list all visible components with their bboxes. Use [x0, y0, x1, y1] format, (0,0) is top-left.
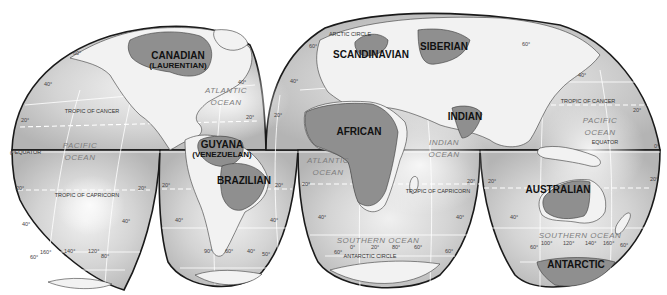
lon-40-sa: 40°	[247, 248, 255, 254]
deg-20-na: 20°	[21, 117, 29, 123]
deg-60-eu: 60°	[309, 43, 317, 49]
label-atlantic-south: ATLANTIC	[306, 156, 349, 165]
label-pacific-west-2: OCEAN	[65, 153, 96, 162]
deg-20-as: 20°	[633, 107, 641, 113]
deg-20-atl: 20°	[246, 114, 254, 120]
label-canadian-sub: (LAURENTIAN)	[149, 61, 207, 70]
deg-40-pac-e: 40°	[122, 218, 130, 224]
label-canadian: CANADIAN	[151, 50, 204, 61]
label-tropic-capricorn-africa: TROPIC OF CAPRICORN	[406, 188, 471, 194]
label-tropic-cancer-west: TROPIC OF CANCER	[65, 108, 120, 114]
deg-40-sa-e: 40°	[270, 217, 278, 223]
deg-20-sa-w: 20°	[162, 182, 170, 188]
deg-60-as: 60°	[522, 41, 530, 47]
deg-40-atl: 40°	[238, 79, 246, 85]
deg-0-west: 0°	[10, 150, 15, 156]
lon-80-af: 80°	[392, 244, 400, 250]
deg-40-sa-w: 40°	[175, 217, 183, 223]
lon-160-w: 160°	[40, 249, 51, 255]
label-equator-west: EQUATOR	[15, 149, 42, 155]
deg-40-au: 40°	[510, 214, 518, 220]
lon-60-sa: 60°	[225, 248, 233, 254]
label-equator-east: EQUATOR	[592, 139, 619, 145]
deg-40-eu: 40°	[290, 78, 298, 84]
lon-0-af: 0°	[350, 244, 355, 250]
label-atlantic-north-2: OCEAN	[211, 98, 242, 107]
label-antarctic: ANTARCTIC	[547, 259, 605, 270]
label-arctic-circle: ARCTIC CIRCLE	[329, 31, 372, 37]
lon-50-sa: 50°	[262, 251, 270, 257]
deg-20-pac-e: 20°	[138, 185, 146, 191]
label-pacific-east: PACIFIC	[583, 116, 617, 125]
lon-140-au: 140°	[585, 240, 596, 246]
deg-40-af-w: 40°	[318, 214, 326, 220]
lon-140-w: 140°	[64, 248, 75, 254]
label-tropic-cancer-east: TROPIC OF CANCER	[561, 98, 616, 104]
label-atlantic-north: ATLANTIC	[204, 86, 247, 95]
deg-60-au-w: 60°	[530, 244, 538, 250]
lon-80-w: 80°	[101, 253, 109, 259]
label-guyana-sub: (VENEZUELAN)	[192, 150, 252, 159]
lon-90-sa: 90°	[204, 248, 212, 254]
deg-20-af-e: 20°	[467, 178, 475, 184]
deg-40-na: 40°	[44, 81, 52, 87]
lon-120-w: 120°	[88, 248, 99, 254]
deg-20-au-e: 20°	[650, 176, 658, 182]
deg-40-sw: 40°	[22, 221, 30, 227]
deg-60-au-e: 60°	[620, 242, 628, 248]
label-guyana: GUYANA	[201, 139, 243, 150]
label-siberian: SIBERIAN	[420, 41, 468, 52]
deg-60-af-w: 60°	[334, 249, 342, 255]
deg-40-af-e: 40°	[456, 214, 464, 220]
lon-160-au: 160°	[603, 240, 614, 246]
label-pacific-east-2: OCEAN	[585, 128, 616, 137]
label-pacific-west: PACIFIC	[63, 141, 97, 150]
deg-60-sw: 60°	[30, 254, 38, 260]
label-antarctic-circle: ANTARCTIC CIRCLE	[344, 253, 397, 259]
label-australian: AUSTRALIAN	[526, 184, 591, 195]
world-map-shields: CANADIAN (LAURENTIAN) GUYANA (VENEZUELAN…	[0, 0, 667, 295]
deg-60-na: 60°	[73, 50, 81, 56]
label-brazilian: BRAZILIAN	[217, 175, 271, 186]
label-african: AFRICAN	[337, 126, 382, 137]
lon-100-au: 100°	[541, 240, 552, 246]
deg-20-eu: 20°	[274, 112, 282, 118]
label-scandinavian: SCANDINAVIAN	[333, 49, 409, 60]
deg-20-au-w: 20°	[488, 178, 496, 184]
deg-60-af-e: 60°	[445, 248, 453, 254]
lon-60-af: 60°	[414, 244, 422, 250]
label-southern-ocean-2: SOUTHERN OCEAN	[539, 231, 622, 240]
deg-20-af-w: 20°	[302, 181, 310, 187]
label-atlantic-south-2: OCEAN	[313, 168, 344, 177]
label-indian-ocean-2: OCEAN	[429, 150, 460, 159]
deg-40-as: 40°	[578, 72, 586, 78]
deg-0-east: 0°	[654, 143, 659, 149]
lon-120-au: 120°	[563, 240, 574, 246]
deg-20-sw: 20°	[16, 185, 24, 191]
lon-20-af: 20°	[371, 244, 379, 250]
label-tropic-capricorn-west: TROPIC OF CAPRICORN	[55, 192, 120, 198]
deg-20-sa-e: 20°	[275, 182, 283, 188]
label-indian: INDIAN	[448, 111, 482, 122]
label-indian-ocean: INDIAN	[429, 138, 459, 147]
ocean-glow	[55, 175, 125, 235]
